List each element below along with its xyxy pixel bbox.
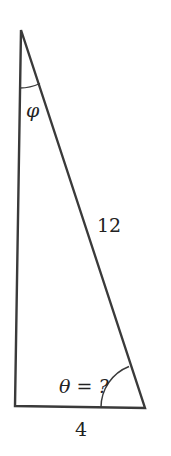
hypotenuse-length-label: 12 xyxy=(97,214,121,236)
triangle-diagram: φ 12 θ = ? 4 xyxy=(0,0,171,456)
base-length-label: 4 xyxy=(75,418,87,440)
phi-label: φ xyxy=(26,99,40,121)
right-triangle xyxy=(15,30,145,408)
theta-label: θ = ? xyxy=(59,375,109,397)
phi-angle-arc xyxy=(20,84,40,89)
